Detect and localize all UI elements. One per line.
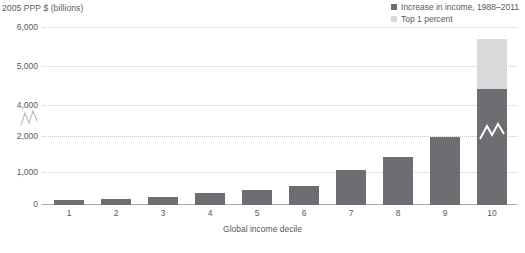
y-axis-title: 2005 PPP $ (billions) (2, 3, 83, 13)
bar-decile-8[interactable] (383, 21, 413, 205)
bar-segment-increase (242, 190, 272, 205)
bar-decile-2[interactable] (101, 21, 131, 205)
bar-decile-10[interactable] (477, 21, 507, 205)
bar-segment-increase (54, 200, 84, 205)
chart-container: 2005 PPP $ (billions) Increase in income… (0, 0, 525, 253)
x-tick-5: 5 (242, 208, 272, 218)
bar-axis-break-zigzag-icon (477, 121, 507, 143)
y-axis-tick-labels: 6,000 5,000 4,000 2,000 1,000 0 (0, 20, 38, 205)
bar-segment-increase (477, 89, 507, 205)
bar-segment-increase (383, 157, 413, 205)
square-swatch-dark-icon (391, 4, 397, 10)
x-tick-4: 4 (195, 208, 225, 218)
bar-segment-increase (336, 170, 366, 205)
bar-segment-increase (289, 186, 319, 205)
y-tick-4000: 4,000 (0, 101, 38, 109)
x-tick-6: 6 (289, 208, 319, 218)
x-axis-title: Global income decile (0, 224, 525, 234)
plot-area (42, 20, 517, 205)
x-tick-10: 10 (477, 208, 507, 218)
bar-decile-9[interactable] (430, 21, 460, 205)
legend-item-increase-in-income: Increase in income, 1988–2011 (391, 2, 519, 12)
x-axis-tick-labels: 1 2 3 4 5 6 7 8 9 10 (42, 208, 517, 222)
bar-decile-5[interactable] (242, 21, 272, 205)
x-tick-2: 2 (101, 208, 131, 218)
bar-decile-4[interactable] (195, 21, 225, 205)
bar-segment-increase (195, 193, 225, 205)
x-tick-9: 9 (430, 208, 460, 218)
bar-decile-3[interactable] (148, 21, 178, 205)
legend-label-increase-in-income: Increase in income, 1988–2011 (401, 2, 519, 12)
bar-segment-increase (148, 197, 178, 205)
bar-segment-increase (430, 137, 460, 205)
bar-decile-6[interactable] (289, 21, 319, 205)
x-tick-1: 1 (54, 208, 84, 218)
bar-segment-top-1-percent (477, 39, 507, 89)
x-tick-7: 7 (336, 208, 366, 218)
x-tick-8: 8 (383, 208, 413, 218)
axis-break-zigzag-icon (20, 110, 38, 126)
bar-segment-increase (101, 199, 131, 205)
y-tick-2000: 2,000 (0, 132, 38, 140)
bar-decile-1[interactable] (54, 21, 84, 205)
y-tick-0: 0 (0, 200, 38, 208)
y-tick-5000: 5,000 (0, 62, 38, 70)
y-tick-1000: 1,000 (0, 168, 38, 176)
bar-decile-7[interactable] (336, 21, 366, 205)
y-tick-6000: 6,000 (0, 23, 38, 31)
x-tick-3: 3 (148, 208, 178, 218)
bar-series (42, 20, 517, 205)
